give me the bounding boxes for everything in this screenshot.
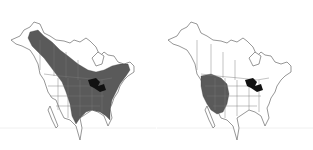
north-america-map-right <box>157 0 313 150</box>
range-map-right <box>157 0 313 150</box>
range-map-left <box>0 0 156 150</box>
north-america-map-left <box>0 0 156 150</box>
baja-peninsula <box>48 106 58 128</box>
continent-outline <box>168 22 291 140</box>
